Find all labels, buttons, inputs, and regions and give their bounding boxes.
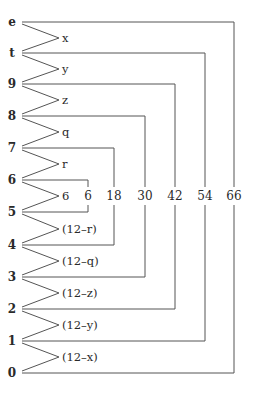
node-label: 3 <box>8 270 16 284</box>
node-label: 1 <box>8 334 16 348</box>
bracket-value: 42 <box>167 189 182 203</box>
edge-label: (12–x) <box>62 350 98 364</box>
edge-label: x <box>62 31 69 45</box>
zigzag-edge <box>22 279 59 307</box>
edge-label: r <box>62 157 68 171</box>
bracket-value: 54 <box>197 189 213 203</box>
node-label: 8 <box>8 109 16 123</box>
zigzag-edge <box>22 182 59 210</box>
bracket-value: 66 <box>226 189 241 203</box>
node-label: t <box>9 46 15 60</box>
zigzag-edge <box>22 214 59 243</box>
edge-label: (12–r) <box>62 222 97 236</box>
node-label: 2 <box>8 302 16 316</box>
bracket-line-top <box>22 116 145 187</box>
bracket-diagram: et9876543210 xyzqr6(12–r)(12–q)(12–z)(12… <box>0 0 253 396</box>
zigzag-edge <box>22 24 59 51</box>
edge-label: z <box>62 93 68 107</box>
node-label: 6 <box>8 173 16 187</box>
edge-label: (12–z) <box>62 286 97 300</box>
node-label: 7 <box>8 141 16 155</box>
bracket-value: 6 <box>84 189 92 203</box>
edge-labels: xyzqr6(12–r)(12–q)(12–z)(12–y)(12–x) <box>61 31 99 364</box>
bracket-line-top <box>22 148 114 187</box>
zigzag-edge <box>22 118 59 146</box>
node-label: 9 <box>8 77 16 91</box>
zigzag-edge <box>22 86 59 114</box>
zigzag-edge <box>22 247 59 275</box>
edge-label: (12–y) <box>62 318 98 332</box>
bracket-value: 18 <box>106 189 121 203</box>
zigzag-edge <box>22 311 59 339</box>
edge-label: y <box>61 62 69 76</box>
node-label: 4 <box>8 238 16 252</box>
node-label: 5 <box>8 205 16 219</box>
zigzag-edge <box>22 150 59 178</box>
edge-label: q <box>62 125 70 139</box>
node-label: 0 <box>8 366 16 380</box>
bracket-line-top <box>22 84 175 187</box>
bracket-line-bottom <box>22 205 234 373</box>
edge-label: 6 <box>62 189 69 203</box>
node-labels: et9876543210 <box>8 15 16 380</box>
edge-label: (12–q) <box>62 254 99 268</box>
bracket-value: 30 <box>137 189 152 203</box>
zigzag-edges <box>22 24 59 371</box>
zigzag-edge <box>22 343 59 371</box>
zigzag-edge <box>22 55 59 82</box>
bracket-value-labels: 61830425466 <box>84 189 241 203</box>
node-label: e <box>8 15 16 29</box>
